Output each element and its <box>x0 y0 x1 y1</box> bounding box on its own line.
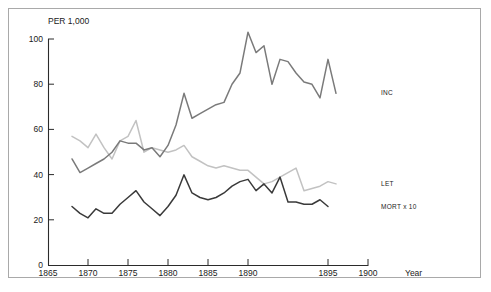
line-chart-plot: PER 1,000 100 80 60 40 20 0 <box>0 0 491 292</box>
y-axis-title: PER 1,000 <box>48 16 89 26</box>
series-line-let <box>72 121 336 191</box>
x-tick-labels: 1865 1870 1875 1880 1885 1890 1895 1900 <box>39 268 378 278</box>
y-tick-label-40: 40 <box>34 170 44 180</box>
y-tick-label-80: 80 <box>34 79 44 89</box>
y-tick-label-100: 100 <box>29 34 43 44</box>
x-tick-label-1900: 1900 <box>359 268 378 278</box>
x-tick-label-1865: 1865 <box>39 268 58 278</box>
x-tick-marks <box>88 259 368 265</box>
series-label-inc: INC <box>381 89 393 96</box>
x-tick-label-1885: 1885 <box>199 268 218 278</box>
y-tick-label-20: 20 <box>34 215 44 225</box>
series-label-mort: MORT x 10 <box>381 203 417 210</box>
y-tick-labels: 100 80 60 40 20 0 <box>29 34 43 270</box>
x-tick-label-1890: 1890 <box>239 268 258 278</box>
series-line-inc <box>72 32 336 172</box>
x-tick-label-1870: 1870 <box>79 268 98 278</box>
x-tick-label-1880: 1880 <box>159 268 178 278</box>
x-tick-label-1875: 1875 <box>119 268 138 278</box>
series-line-mort <box>72 175 328 218</box>
series-label-let: LET <box>381 180 394 187</box>
x-tick-label-1895: 1895 <box>319 268 338 278</box>
y-tick-label-60: 60 <box>34 124 44 134</box>
x-axis-title: Year <box>405 268 422 278</box>
chart-screenshot: PER 1,000 100 80 60 40 20 0 <box>0 0 491 292</box>
